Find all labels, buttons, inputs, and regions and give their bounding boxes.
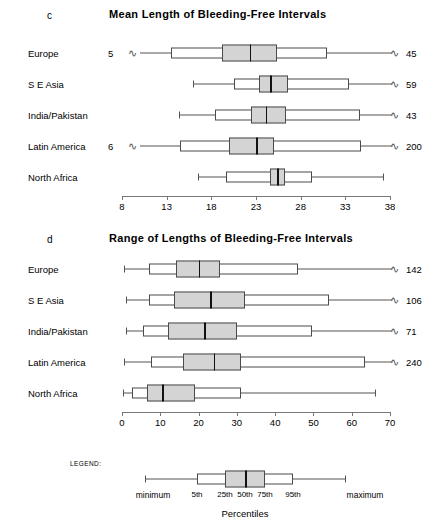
median-line-50th	[270, 76, 272, 93]
box-plot-glyph: ∿240	[0, 347, 431, 377]
axis-break-marker: ∿	[390, 110, 399, 121]
axis-tick	[122, 196, 123, 200]
whisker-cap-left	[124, 359, 125, 366]
axis-tick-label: 30	[232, 417, 243, 428]
whisker-right	[360, 115, 392, 116]
axis-tick	[256, 196, 257, 200]
whisker-right	[312, 177, 383, 178]
whisker-max-value-label: 106	[406, 295, 422, 306]
axis-tick	[301, 196, 302, 200]
whisker-max-value-label: 240	[406, 357, 422, 368]
legend-panel: LEGEND: 5th25th50th75th95thminimummaximu…	[0, 440, 431, 527]
panel-c-mean-length: c Mean Length of Bleeding-Free Intervals…	[0, 0, 431, 228]
axis-tick	[390, 196, 391, 200]
box-plot-glyph	[0, 378, 431, 408]
axis-tick	[390, 412, 391, 416]
median-line-50th	[266, 107, 268, 124]
axis-tick	[167, 196, 168, 200]
axis-tick-label: 0	[119, 417, 124, 428]
box-plot-glyph	[0, 162, 431, 192]
inner-box-25th-75th	[259, 76, 288, 93]
median-line-50th	[250, 45, 252, 62]
legend-minimum-label: minimum	[136, 490, 170, 500]
whisker-left	[126, 300, 149, 301]
panel-letter-d: d	[47, 234, 53, 245]
whisker-cap-left	[126, 328, 127, 335]
axis-tick	[275, 412, 276, 416]
legend-cap-max	[345, 476, 346, 483]
legend-percentile-label: 25th	[217, 490, 233, 499]
panel-c-title: Mean Length of Bleeding-Free Intervals	[109, 8, 326, 20]
inner-box-25th-75th	[183, 354, 240, 371]
median-line-50th	[277, 169, 279, 186]
whisker-right	[361, 146, 392, 147]
box-plot-row: Latin America∿240	[0, 347, 431, 377]
axis-tick-label: 70	[385, 417, 396, 428]
axis-line	[122, 412, 390, 413]
axis-tick	[199, 412, 200, 416]
legend-percentile-label: 5th	[191, 490, 202, 499]
box-plot-row: North Africa	[0, 162, 431, 192]
axis-tick	[237, 412, 238, 416]
outer-box-5th-95th	[149, 264, 298, 275]
legend-percentile-label: 95th	[285, 490, 301, 499]
median-line-50th	[199, 261, 201, 278]
box-plot-row: Europe∿142	[0, 254, 431, 284]
whisker-min-value-label: 5	[108, 48, 113, 59]
axis-tick-label: 18	[206, 201, 217, 212]
box-plot-glyph: ∿71	[0, 316, 431, 346]
axis-tick-label: 10	[155, 417, 166, 428]
axis-break-marker: ∿	[390, 79, 399, 90]
box-plot-glyph: ∿106	[0, 285, 431, 315]
box-plot-row: India/Pakistan∿71	[0, 316, 431, 346]
axis-break-marker: ∿	[390, 295, 399, 306]
box-plot-glyph: ∿59	[0, 69, 431, 99]
whisker-right	[327, 53, 392, 54]
axis-tick-label: 20	[193, 417, 204, 428]
axis-tick	[160, 412, 161, 416]
box-plot-row: Latin America∿6∿200	[0, 131, 431, 161]
outer-box-5th-95th	[215, 110, 360, 121]
axis-break-marker: ∿	[390, 141, 399, 152]
whisker-left	[124, 362, 151, 363]
axis-tick-label: 40	[270, 417, 281, 428]
box-plot-glyph: ∿43	[0, 100, 431, 130]
whisker-left	[198, 177, 226, 178]
axis-tick	[122, 412, 123, 416]
axis-break-marker: ∿	[390, 264, 399, 275]
whisker-left	[193, 84, 233, 85]
whisker-left	[179, 115, 215, 116]
axis-break-marker: ∿	[128, 141, 137, 152]
median-line-50th	[204, 323, 206, 340]
median-line-50th	[210, 292, 212, 309]
box-plot-row: Europe∿5∿45	[0, 38, 431, 68]
whisker-cap-left	[193, 81, 194, 88]
whisker-max-value-label: 59	[406, 79, 417, 90]
whisker-left	[140, 146, 180, 147]
whisker-left	[123, 393, 131, 394]
inner-box-25th-75th	[229, 138, 274, 155]
legend-box-schematic	[0, 468, 431, 490]
panel-c-axis: 8131823283338	[0, 196, 431, 222]
axis-tick-label: 50	[308, 417, 319, 428]
panel-letter-c: c	[47, 10, 52, 21]
median-line-50th	[214, 354, 216, 371]
whisker-left	[126, 331, 143, 332]
whisker-cap-right	[383, 174, 384, 181]
axis-tick-label: 28	[295, 201, 306, 212]
axis-break-marker: ∿	[390, 357, 399, 368]
inner-box-25th-75th	[147, 385, 195, 402]
panel-d-axis: 010203040506070	[0, 412, 431, 438]
box-plot-row: S E Asia∿59	[0, 69, 431, 99]
whisker-right	[312, 331, 392, 332]
whisker-right	[365, 362, 392, 363]
legend-percentile-label: 75th	[257, 490, 273, 499]
axis-tick-label: 60	[346, 417, 357, 428]
axis-break-marker: ∿	[390, 48, 399, 59]
axis-tick	[352, 412, 353, 416]
whisker-max-value-label: 43	[406, 110, 417, 121]
legend-maximum-label: maximum	[347, 490, 384, 500]
inner-box-25th-75th	[168, 323, 237, 340]
panel-d-title: Range of Lengths of Bleeding-Free Interv…	[109, 232, 353, 244]
legend-median-line	[245, 471, 247, 488]
